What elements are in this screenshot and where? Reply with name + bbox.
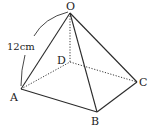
edge-ob <box>70 13 97 112</box>
edge-ab <box>21 89 97 112</box>
vertex-label-o: O <box>66 0 75 13</box>
vertex-label-a: A <box>9 91 19 104</box>
edge-oc <box>70 13 137 82</box>
vertex-label-d: D <box>57 54 66 67</box>
vertex-label-b: B <box>91 115 99 128</box>
edge-bc <box>97 82 137 112</box>
pyramid-diagram: O D A B C 12cm <box>0 0 155 129</box>
vertex-label-c: C <box>139 76 147 89</box>
measurement-label: 12cm <box>7 41 35 52</box>
measure-arc-lower <box>21 55 25 86</box>
